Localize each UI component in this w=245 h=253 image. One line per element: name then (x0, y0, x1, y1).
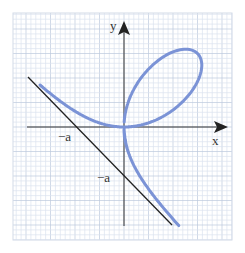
y-intercept-label: −a (97, 170, 110, 185)
x-axis-label: x (212, 133, 219, 148)
asymptote-line (28, 77, 172, 225)
y-axis-label: y (110, 18, 117, 33)
folium-diagram: y x −a −a (0, 0, 245, 253)
x-intercept-label: −a (58, 129, 71, 144)
